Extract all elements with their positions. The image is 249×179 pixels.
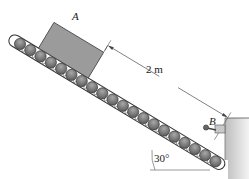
wall	[225, 118, 249, 179]
block-label: A	[72, 11, 79, 22]
distance-label: 2 m	[146, 64, 163, 75]
diagram-canvas	[0, 0, 249, 179]
angle-label: 30°	[154, 153, 169, 164]
rollers	[12, 36, 223, 169]
stop-label: B	[209, 116, 216, 127]
roller-conveyor	[7, 0, 249, 172]
